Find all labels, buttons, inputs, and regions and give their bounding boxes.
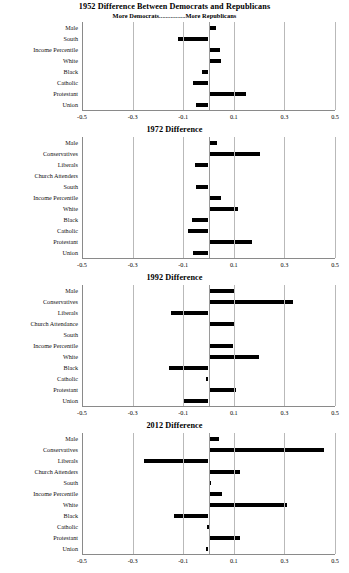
bar (209, 355, 260, 359)
bar-row: South (0, 477, 349, 488)
x-tick-label: 0.3 (281, 261, 289, 269)
plot-area: MaleConservativesLiberalsChurch Attendan… (0, 285, 349, 406)
bar-row: Protestant (0, 88, 349, 99)
bar-row: South (0, 181, 349, 192)
category-label: Catholic (0, 375, 82, 382)
category-label: Liberals (0, 161, 82, 168)
category-label: Conservatives (0, 446, 82, 453)
bar-row: Income Percentile (0, 192, 349, 203)
bar (144, 459, 209, 463)
x-tick-label: 0.5 (331, 557, 339, 565)
bar-track (82, 329, 335, 340)
bar-track (82, 510, 335, 521)
bar-row: South (0, 33, 349, 44)
bar-row: Male (0, 285, 349, 296)
category-label: Black (0, 216, 82, 223)
bar (192, 218, 208, 222)
bar-row: Black (0, 214, 349, 225)
bar-row: Liberals (0, 455, 349, 466)
bar-row: Male (0, 22, 349, 33)
bar-track (82, 384, 335, 395)
bar-row: Income Percentile (0, 44, 349, 55)
bar (193, 251, 208, 255)
x-tick-label: 0.1 (230, 261, 238, 269)
bar-track (82, 488, 335, 499)
category-label: Male (0, 287, 82, 294)
x-tick-label: -0.5 (77, 261, 87, 269)
category-label: White (0, 57, 82, 64)
bar (209, 322, 234, 326)
x-tick-label: 0.5 (331, 261, 339, 269)
bar (193, 81, 208, 85)
category-label: Black (0, 512, 82, 519)
bar (209, 437, 219, 441)
bar-track (82, 137, 335, 148)
bar (195, 163, 209, 167)
axis-left-rule (82, 22, 83, 110)
bar-row: Catholic (0, 373, 349, 384)
x-tick-label: 0.1 (230, 557, 238, 565)
category-label: Male (0, 139, 82, 146)
category-label: Income Percentile (0, 46, 82, 53)
bar (174, 514, 208, 518)
bar-row: Union (0, 247, 349, 258)
bar (209, 26, 217, 30)
bar-rows: MaleConservativesLiberalsChurch Attendan… (0, 285, 349, 406)
category-label: Male (0, 435, 82, 442)
bar (209, 492, 223, 496)
category-label: Catholic (0, 79, 82, 86)
bar (209, 207, 238, 211)
bar-track (82, 55, 335, 66)
bar-track (82, 203, 335, 214)
bar (202, 70, 208, 74)
bar (209, 470, 241, 474)
chart-subtitle: More Democrats................More Repub… (0, 12, 349, 20)
chart-panel-1952: 1952 Difference Between Democrats and Re… (0, 0, 349, 123)
x-tick-label: -0.3 (128, 113, 138, 121)
category-label: Union (0, 101, 82, 108)
bar-track (82, 351, 335, 362)
bar-row: Male (0, 137, 349, 148)
category-label: White (0, 501, 82, 508)
bar-row: Union (0, 395, 349, 406)
bar-row: Liberals (0, 159, 349, 170)
bar-track (82, 99, 335, 110)
bar-track (82, 225, 335, 236)
bar (209, 174, 210, 178)
bar (196, 185, 209, 189)
chart-panel-2012: 2012 DifferenceMaleConservativesLiberals… (0, 419, 349, 567)
bar-row: White (0, 499, 349, 510)
category-label: South (0, 331, 82, 338)
bar-row: White (0, 203, 349, 214)
bar (209, 536, 241, 540)
category-label: Protestant (0, 534, 82, 541)
bar-track (82, 22, 335, 33)
x-tick-label: -0.1 (178, 113, 188, 121)
bar (209, 152, 261, 156)
x-tick-label: -0.5 (77, 409, 87, 417)
x-tick-label: 0.1 (230, 409, 238, 417)
bar-track (82, 433, 335, 444)
x-tick-label: -0.1 (178, 409, 188, 417)
bar-row: Black (0, 510, 349, 521)
category-label: Protestant (0, 90, 82, 97)
category-label: Catholic (0, 227, 82, 234)
bar-row: White (0, 351, 349, 362)
bar-row: Black (0, 362, 349, 373)
bar-track (82, 214, 335, 225)
bar-track (82, 395, 335, 406)
category-label: Income Percentile (0, 194, 82, 201)
bar-rows: MaleConservativesLiberalsChurch Attender… (0, 433, 349, 554)
category-label: South (0, 479, 82, 486)
bar-row: Union (0, 543, 349, 554)
bar-track (82, 66, 335, 77)
chart-title: 2012 Difference (0, 419, 349, 431)
bar-track (82, 170, 335, 181)
bar-track (82, 44, 335, 55)
axis-left-rule (82, 285, 83, 406)
x-tick-label: 0.3 (281, 113, 289, 121)
bar-track (82, 247, 335, 258)
category-label: White (0, 205, 82, 212)
bar-row: Black (0, 66, 349, 77)
bar (209, 388, 237, 392)
